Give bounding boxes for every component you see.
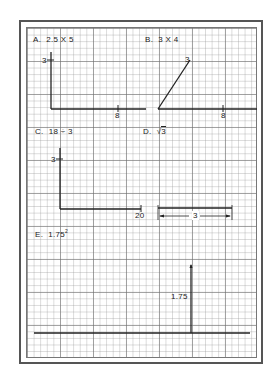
problem-e-base: 1.75 bbox=[48, 230, 65, 239]
problem-d-label: D. bbox=[143, 127, 152, 136]
problem-b-label: B. bbox=[145, 35, 153, 44]
problem-a-y-tick: 3 bbox=[42, 56, 47, 65]
problem-e-label: E. bbox=[35, 230, 43, 239]
diagram-c bbox=[56, 148, 141, 212]
problem-a-x-tick: 8 bbox=[115, 111, 120, 120]
problem-e-height-label: 1.75 bbox=[171, 292, 188, 301]
problem-b-title: B. 3 X 4 bbox=[145, 35, 178, 44]
problem-d-title: D. √3 bbox=[143, 127, 166, 136]
problem-b-expr: 3 X 4 bbox=[158, 35, 178, 44]
problem-c-x-tick: 20 bbox=[135, 211, 145, 220]
problem-c-expr: 18 ÷ 3 bbox=[49, 127, 73, 136]
problem-c-title: C. 18 ÷ 3 bbox=[35, 127, 73, 136]
problem-b-x-tick: 8 bbox=[221, 111, 226, 120]
diagram-a bbox=[47, 52, 146, 112]
diagram-e bbox=[34, 264, 250, 333]
problem-a-label: A. bbox=[33, 35, 41, 44]
problem-c-label: C. bbox=[35, 127, 44, 136]
problem-b-point-label: 3 bbox=[185, 55, 190, 64]
problem-c-y-tick: 3 bbox=[51, 155, 56, 164]
problem-e-title: E. 1.752 bbox=[35, 228, 68, 239]
problem-a-expr: 2.5 X 5 bbox=[46, 35, 73, 44]
problem-a-title: A. 2.5 X 5 bbox=[33, 35, 74, 44]
problem-e-exponent: 2 bbox=[65, 228, 68, 234]
problem-d-radicand: 3 bbox=[161, 126, 166, 136]
diagram-b bbox=[158, 60, 257, 112]
problem-d-dimension-label: 3 bbox=[192, 211, 199, 220]
